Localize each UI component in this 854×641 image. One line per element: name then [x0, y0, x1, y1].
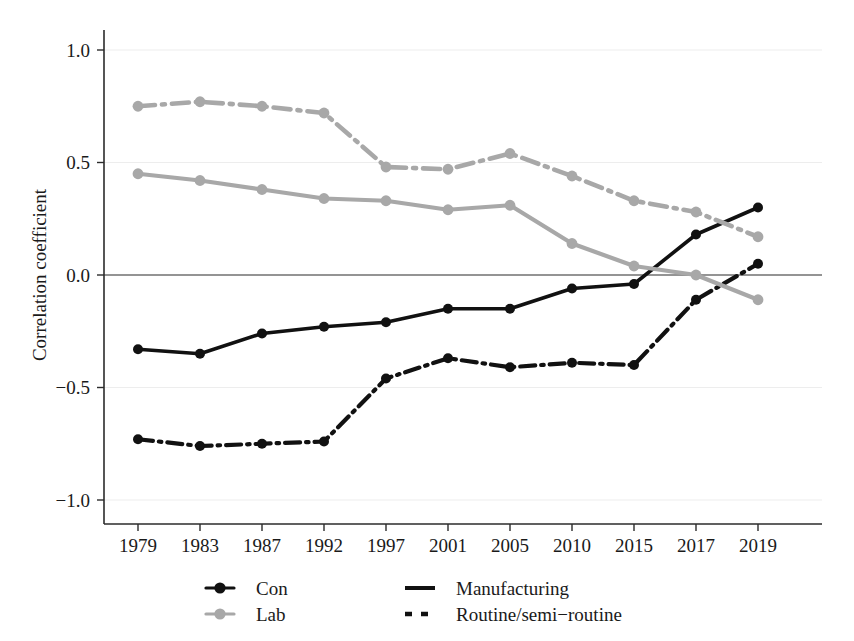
data-point	[691, 270, 702, 281]
data-point	[567, 358, 577, 368]
legend-label: Manufacturing	[456, 578, 569, 599]
data-point	[691, 207, 702, 218]
x-tick-label-1987: 1987	[243, 535, 281, 556]
data-point	[257, 184, 268, 195]
data-point	[505, 362, 515, 372]
data-point	[381, 162, 392, 173]
data-point	[133, 344, 143, 354]
data-point	[629, 195, 640, 206]
x-tick-label-2017: 2017	[677, 535, 715, 556]
y-tick-label--1.0: −1.0	[56, 490, 90, 511]
data-point	[133, 434, 143, 444]
data-point	[319, 437, 329, 447]
y-tick-label-0.5: 0.5	[66, 152, 90, 173]
legend-marker-icon	[214, 608, 225, 619]
x-tick-label-2005: 2005	[491, 535, 529, 556]
legend-label: Lab	[256, 604, 286, 625]
x-tick-label-1997: 1997	[367, 535, 405, 556]
data-point	[319, 108, 330, 119]
y-tick-label-1.0: 1.0	[66, 40, 90, 61]
data-point	[319, 193, 330, 204]
data-point	[195, 441, 205, 451]
data-point	[567, 284, 577, 294]
data-point	[753, 203, 763, 213]
data-point	[629, 279, 639, 289]
data-point	[567, 238, 578, 249]
data-point	[381, 317, 391, 327]
x-tick-labels-group: 1979198319871992199720012005201020152017…	[119, 535, 777, 556]
data-point	[133, 168, 144, 179]
data-point	[257, 329, 267, 339]
data-point	[753, 294, 764, 305]
data-point	[443, 353, 453, 363]
x-tick-label-2001: 2001	[429, 535, 467, 556]
data-point	[381, 195, 392, 206]
data-point	[505, 200, 516, 211]
data-point	[195, 175, 206, 186]
data-point	[195, 349, 205, 359]
data-point	[381, 374, 391, 384]
x-tick-label-1979: 1979	[119, 535, 157, 556]
data-point	[443, 304, 453, 314]
data-point	[443, 164, 454, 175]
x-tick-label-2015: 2015	[615, 535, 653, 556]
data-point	[567, 171, 578, 182]
x-tick-label-1992: 1992	[305, 535, 343, 556]
data-point	[629, 360, 639, 370]
data-point	[319, 322, 329, 332]
data-point	[629, 261, 640, 272]
y-axis-title: Correlation coefficient	[29, 188, 50, 361]
legend-marker-icon	[214, 582, 225, 593]
data-point	[195, 96, 206, 107]
x-tick-label-2019: 2019	[739, 535, 777, 556]
data-point	[505, 148, 516, 159]
x-tick-label-2010: 2010	[553, 535, 591, 556]
data-point	[753, 259, 763, 269]
legend-label: Con	[256, 578, 288, 599]
y-tick-label-0.0: 0.0	[66, 265, 90, 286]
data-point	[133, 101, 144, 112]
data-point	[257, 101, 268, 112]
data-point	[443, 204, 454, 215]
correlation-coefficient-line-chart: 1.00.50.0−0.5−1.0 1979198319871992199720…	[0, 0, 854, 641]
x-tick-label-1983: 1983	[181, 535, 219, 556]
data-point	[691, 230, 701, 240]
data-point	[257, 439, 267, 449]
legend-label: Routine/semi−routine	[456, 604, 622, 625]
data-point	[691, 295, 701, 305]
y-tick-label--0.5: −0.5	[56, 377, 90, 398]
chart-figure: 1.00.50.0−0.5−1.0 1979198319871992199720…	[0, 0, 854, 641]
data-point	[505, 304, 515, 314]
data-point	[753, 231, 764, 242]
